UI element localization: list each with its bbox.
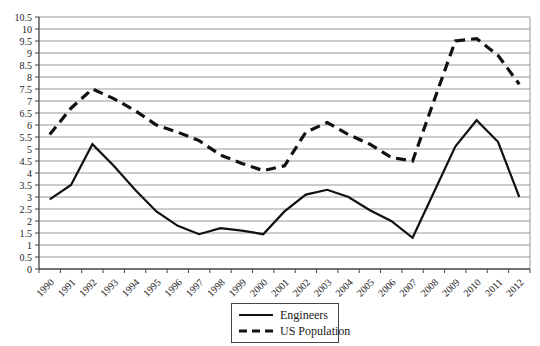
x-tick-label: 2006 [376, 277, 398, 299]
line-chart: 00.511.522.533.544.555.566.577.588.599.5… [0, 0, 540, 346]
x-tick-label: 2012 [504, 277, 526, 299]
y-tick-label: 10 [22, 24, 32, 35]
y-tick-label: 4.5 [20, 156, 33, 167]
legend-item-us-population: US Population [238, 323, 332, 339]
us-population-line [50, 39, 520, 171]
dashed-line-swatch-icon [238, 326, 274, 336]
y-tick-label: 9.5 [20, 36, 33, 47]
y-tick-label: 9 [27, 48, 32, 59]
solid-line-swatch-icon [238, 310, 274, 320]
y-tick-label: 4 [27, 168, 32, 179]
y-tick-label: 7.5 [20, 84, 33, 95]
x-tick-label: 2007 [397, 277, 419, 299]
x-tick-label: 2008 [418, 277, 440, 299]
y-tick-label: 10.5 [15, 12, 33, 23]
y-tick-label: 5 [27, 144, 32, 155]
x-tick-label: 1991 [56, 277, 78, 299]
x-tick-label: 1993 [98, 277, 120, 299]
y-tick-label: 1 [27, 240, 32, 251]
legend-item-engineers: Engineers [238, 307, 332, 323]
x-tick-label: 2009 [440, 277, 462, 299]
y-tick-label: 1.5 [20, 228, 33, 239]
legend-label-us-population: US Population [280, 323, 350, 339]
y-tick-label: 3.5 [20, 180, 33, 191]
x-tick-label: 1992 [77, 277, 99, 299]
y-tick-label: 8 [27, 72, 32, 83]
y-tick-label: 0.5 [20, 252, 33, 263]
x-tick-label: 2010 [461, 277, 483, 299]
x-tick-label: 2005 [354, 277, 376, 299]
y-tick-label: 6 [27, 120, 32, 131]
y-tick-label: 2.5 [20, 204, 33, 215]
x-tick-label: 2000 [248, 277, 270, 299]
y-tick-label: 0 [27, 264, 32, 275]
y-tick-label: 2 [27, 216, 32, 227]
x-tick-label: 2002 [290, 277, 312, 299]
y-tick-label: 3 [27, 192, 32, 203]
legend-label-engineers: Engineers [280, 307, 328, 323]
y-tick-label: 6.5 [20, 108, 33, 119]
chart-plot-area: 00.511.522.533.544.555.566.577.588.599.5… [0, 0, 540, 346]
x-tick-label: 1998 [205, 277, 227, 299]
engineers-line [50, 120, 520, 238]
chart-legend: Engineers US Population [231, 303, 339, 343]
x-tick-label: 2011 [483, 277, 505, 299]
x-tick-label: 1995 [141, 277, 163, 299]
y-tick-label: 7 [27, 96, 32, 107]
y-tick-label: 8.5 [20, 60, 33, 71]
x-tick-label: 1994 [120, 277, 142, 299]
x-tick-label: 1990 [34, 277, 56, 299]
x-tick-label: 2004 [333, 277, 355, 299]
x-tick-label: 1999 [226, 277, 248, 299]
x-tick-label: 2001 [269, 277, 291, 299]
y-tick-label: 5.5 [20, 132, 33, 143]
x-tick-label: 2003 [312, 277, 334, 299]
x-tick-label: 1996 [162, 277, 184, 299]
x-tick-label: 1997 [184, 277, 206, 299]
